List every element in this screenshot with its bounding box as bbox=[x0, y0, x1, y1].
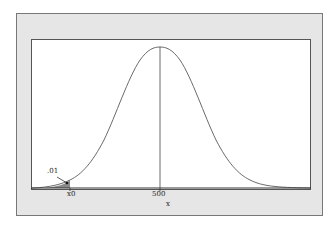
annotation-point bbox=[66, 182, 69, 185]
tail-area-label: .01 bbox=[47, 167, 58, 175]
bell-curve bbox=[32, 47, 310, 188]
tick-label-mean: 500 bbox=[152, 190, 165, 198]
normal-curve-chart bbox=[0, 0, 336, 230]
x-axis-label: x bbox=[166, 200, 170, 208]
tick-label-x0: x0 bbox=[67, 190, 75, 198]
annotation-arrow bbox=[57, 177, 67, 183]
